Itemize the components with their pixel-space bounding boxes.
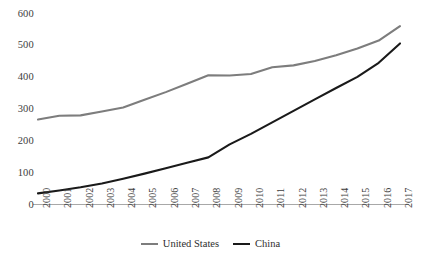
x-tick-label-2009: 2009 [234,187,244,207]
chart-legend: United StatesChina [0,238,421,249]
x-tick-label-2015: 2015 [361,187,371,207]
legend-label: China [255,238,280,249]
legend-item-united-states[interactable]: United States [141,238,219,249]
x-tick-label-2011: 2011 [276,187,286,207]
x-tick-label-2002: 2002 [85,187,95,207]
x-tick-label-2014: 2014 [340,187,350,207]
x-tick-label-2004: 2004 [127,187,137,207]
x-tick-label-2005: 2005 [148,187,158,207]
line-chart: 6005004003002001000 20002001200220032004… [0,0,421,253]
x-tick-label-2001: 2001 [63,187,73,207]
x-tick-label-2006: 2006 [170,187,180,207]
x-tick-label-2007: 2007 [191,187,201,207]
x-tick-label-2017: 2017 [404,187,414,207]
x-tick-label-2013: 2013 [319,187,329,207]
x-tick-label-2003: 2003 [106,187,116,207]
legend-line-swatch-icon [233,243,250,245]
x-tick-label-2010: 2010 [255,187,265,207]
legend-label: United States [163,238,219,249]
x-axis-tick-labels: 2000200120022003200420052006200720082009… [0,0,421,253]
legend-item-china[interactable]: China [233,238,280,249]
x-tick-label-2008: 2008 [212,187,222,207]
x-tick-label-2000: 2000 [42,187,52,207]
x-tick-label-2016: 2016 [383,187,393,207]
legend-line-swatch-icon [141,243,158,245]
x-tick-label-2012: 2012 [298,187,308,207]
